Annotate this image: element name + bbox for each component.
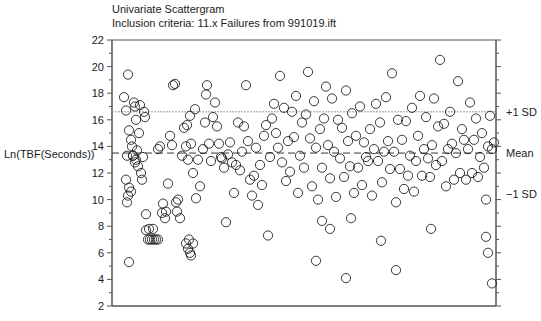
data-point [319, 114, 328, 123]
data-point [214, 139, 223, 148]
data-point [202, 81, 211, 90]
data-point [369, 145, 378, 154]
data-point [405, 151, 414, 160]
data-point [325, 224, 334, 233]
y-tick-label: 22 [92, 34, 104, 46]
y-tick-label: 18 [92, 87, 104, 99]
data-point [399, 184, 408, 193]
y-tick-label: 16 [92, 114, 104, 126]
minus-sd-label: −1 SD [506, 188, 537, 200]
y-tick-label: 20 [92, 61, 104, 73]
data-point [273, 143, 282, 152]
data-point [423, 154, 432, 163]
data-point [267, 114, 276, 123]
data-point [337, 123, 346, 132]
data-point [441, 182, 450, 191]
data-point [407, 103, 416, 112]
data-point [134, 129, 143, 138]
data-point [188, 168, 197, 177]
data-point [375, 118, 384, 127]
data-point [259, 131, 268, 140]
data-point [347, 109, 356, 118]
data-point [124, 126, 133, 135]
data-point [221, 218, 230, 227]
data-point [311, 143, 320, 152]
data-point [317, 216, 326, 225]
y-tick-label: 6 [98, 247, 104, 259]
data-point [307, 182, 316, 191]
data-point [469, 135, 478, 144]
data-point [413, 131, 422, 140]
data-point [421, 113, 430, 122]
data-point [439, 119, 448, 128]
data-point [122, 198, 131, 207]
data-point [391, 198, 400, 207]
data-point [385, 164, 394, 173]
data-point [121, 106, 130, 115]
data-point [124, 258, 133, 267]
data-point [285, 167, 294, 176]
data-point [339, 172, 348, 181]
data-point [210, 98, 219, 107]
data-point [126, 135, 135, 144]
data-point [200, 118, 209, 127]
data-point [208, 113, 217, 122]
data-point [426, 224, 435, 233]
y-tick-label: 12 [92, 167, 104, 179]
data-point [315, 125, 324, 134]
data-point [299, 163, 308, 172]
data-point [247, 191, 256, 200]
data-point [463, 145, 472, 154]
data-point [153, 145, 162, 154]
data-point [295, 151, 304, 160]
data-point [206, 156, 215, 165]
data-point [481, 232, 490, 241]
data-point [357, 180, 366, 189]
y-tick-label: 14 [92, 140, 104, 152]
data-point [275, 71, 284, 80]
data-point [255, 160, 264, 169]
data-point [471, 114, 480, 123]
data-point [311, 256, 320, 265]
data-point [367, 191, 376, 200]
data-point [245, 175, 254, 184]
axes: 246810121416182022 [92, 34, 501, 312]
data-point [365, 125, 374, 134]
data-point [453, 77, 462, 86]
plus-sd-label: +1 SD [506, 106, 537, 118]
data-point [190, 105, 199, 114]
y-tick-label: 4 [98, 273, 104, 285]
data-point [241, 81, 250, 90]
data-point [377, 178, 386, 187]
data-point [123, 70, 132, 79]
data-point [397, 135, 406, 144]
data-point [167, 141, 176, 150]
data-point [383, 137, 392, 146]
data-point [327, 94, 336, 103]
data-point [243, 137, 252, 146]
data-point [427, 141, 436, 150]
data-point [317, 163, 326, 172]
data-point [301, 110, 310, 119]
data-point [144, 224, 153, 233]
data-points [119, 55, 498, 288]
data-point [376, 236, 385, 245]
data-point [305, 134, 314, 143]
data-point [351, 131, 360, 140]
data-point [195, 182, 204, 191]
data-point [141, 210, 150, 219]
data-point [155, 142, 164, 151]
data-point [481, 195, 490, 204]
data-point [303, 67, 312, 76]
data-point [341, 274, 350, 283]
data-point [182, 121, 191, 130]
data-point [148, 224, 157, 233]
data-point [229, 188, 238, 197]
data-point [403, 171, 412, 180]
data-point [313, 195, 322, 204]
data-point [201, 90, 210, 99]
data-point [331, 192, 340, 201]
data-point [271, 129, 280, 138]
mean-label: Mean [506, 147, 534, 159]
data-point [149, 235, 158, 244]
